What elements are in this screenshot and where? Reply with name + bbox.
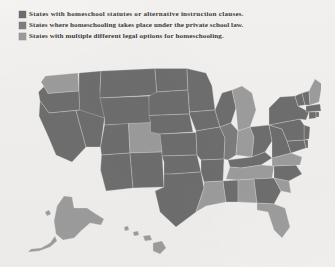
state-AK-island-1: [45, 210, 51, 216]
state-CT: [309, 112, 316, 119]
state-WY: [100, 96, 151, 125]
legend-label-private-school: States where homeschooling takes place u…: [29, 21, 243, 30]
us-map-svg: [26, 62, 321, 260]
state-ME: [309, 79, 321, 105]
state-MA: [306, 104, 321, 112]
legend-item: States with homeschool statutes or alter…: [19, 10, 319, 21]
state-OK: [162, 155, 201, 174]
state-NC: [272, 165, 302, 181]
state-AZ: [101, 153, 134, 191]
state-MO: [196, 127, 225, 160]
state-WA: [41, 73, 79, 94]
map-legend: States with homeschool statutes or alter…: [19, 10, 319, 43]
state-MT: [100, 69, 157, 99]
legend-swatch-private-school: [19, 22, 26, 29]
state-IN: [236, 127, 254, 157]
legend-swatch-statutes: [19, 11, 26, 18]
state-AL: [238, 179, 257, 203]
state-HI-oahu: [133, 231, 139, 236]
state-TN: [226, 165, 274, 180]
legend-swatch-multiple-options: [19, 33, 26, 40]
state-HI-kauai: [124, 226, 129, 231]
state-NM: [130, 152, 164, 188]
state-SD: [149, 90, 190, 116]
state-AR: [201, 159, 224, 182]
state-FL: [257, 203, 290, 238]
state-AK-aleutians: [28, 236, 57, 252]
legend-item: States with multiple different legal opt…: [19, 32, 319, 43]
state-MN: [187, 69, 215, 113]
legend-label-multiple-options: States with multiple different legal opt…: [29, 32, 224, 41]
state-AK: [54, 196, 104, 240]
state-NJ: [304, 125, 310, 140]
figure-page: States with homeschool statutes or alter…: [0, 0, 335, 267]
us-choropleth-map: [26, 62, 321, 260]
state-RI: [316, 112, 319, 117]
legend-label-statutes: States with homeschool statutes or alter…: [29, 10, 244, 19]
state-UT: [101, 124, 131, 156]
state-HI-bigisland: [153, 241, 166, 254]
legend-item: States where homeschooling takes place u…: [19, 21, 319, 32]
state-KS: [160, 133, 197, 157]
state-HI-maui: [143, 235, 152, 241]
state-NE: [149, 114, 193, 134]
